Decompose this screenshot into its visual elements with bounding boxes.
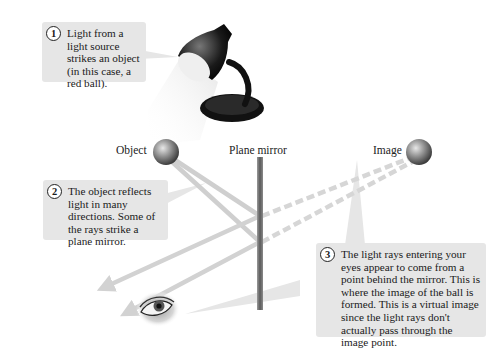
diagram-stage: Object Plane mirror Image 1 Light from a… <box>0 0 502 349</box>
incident-rays <box>170 158 260 242</box>
object-label: Object <box>116 144 147 156</box>
callout-1: 1 Light from a light source strikes an o… <box>42 22 146 82</box>
callout-3: 3 The light rays entering your eyes appe… <box>316 243 486 337</box>
step-number-3: 3 <box>320 247 335 262</box>
object-ball <box>153 139 179 165</box>
image-ball <box>406 139 432 165</box>
callout-1-text: Light from a light source strikes an obj… <box>67 27 140 89</box>
callout-3-pointer-image <box>345 160 365 245</box>
mirror-label: Plane mirror <box>229 144 287 156</box>
callout-3-pointer <box>185 280 300 314</box>
step-number-2: 2 <box>47 184 62 199</box>
plane-mirror <box>257 157 263 310</box>
eye-icon <box>136 291 180 327</box>
image-label: Image <box>373 144 402 156</box>
virtual-rays <box>262 158 412 242</box>
callout-3-text: The light rays entering your eyes appear… <box>341 248 480 348</box>
callout-2: 2 The object reflects light in many dire… <box>43 180 168 240</box>
callout-2-text: The object reflects light in many direct… <box>68 185 155 247</box>
step-number-1: 1 <box>46 26 61 41</box>
